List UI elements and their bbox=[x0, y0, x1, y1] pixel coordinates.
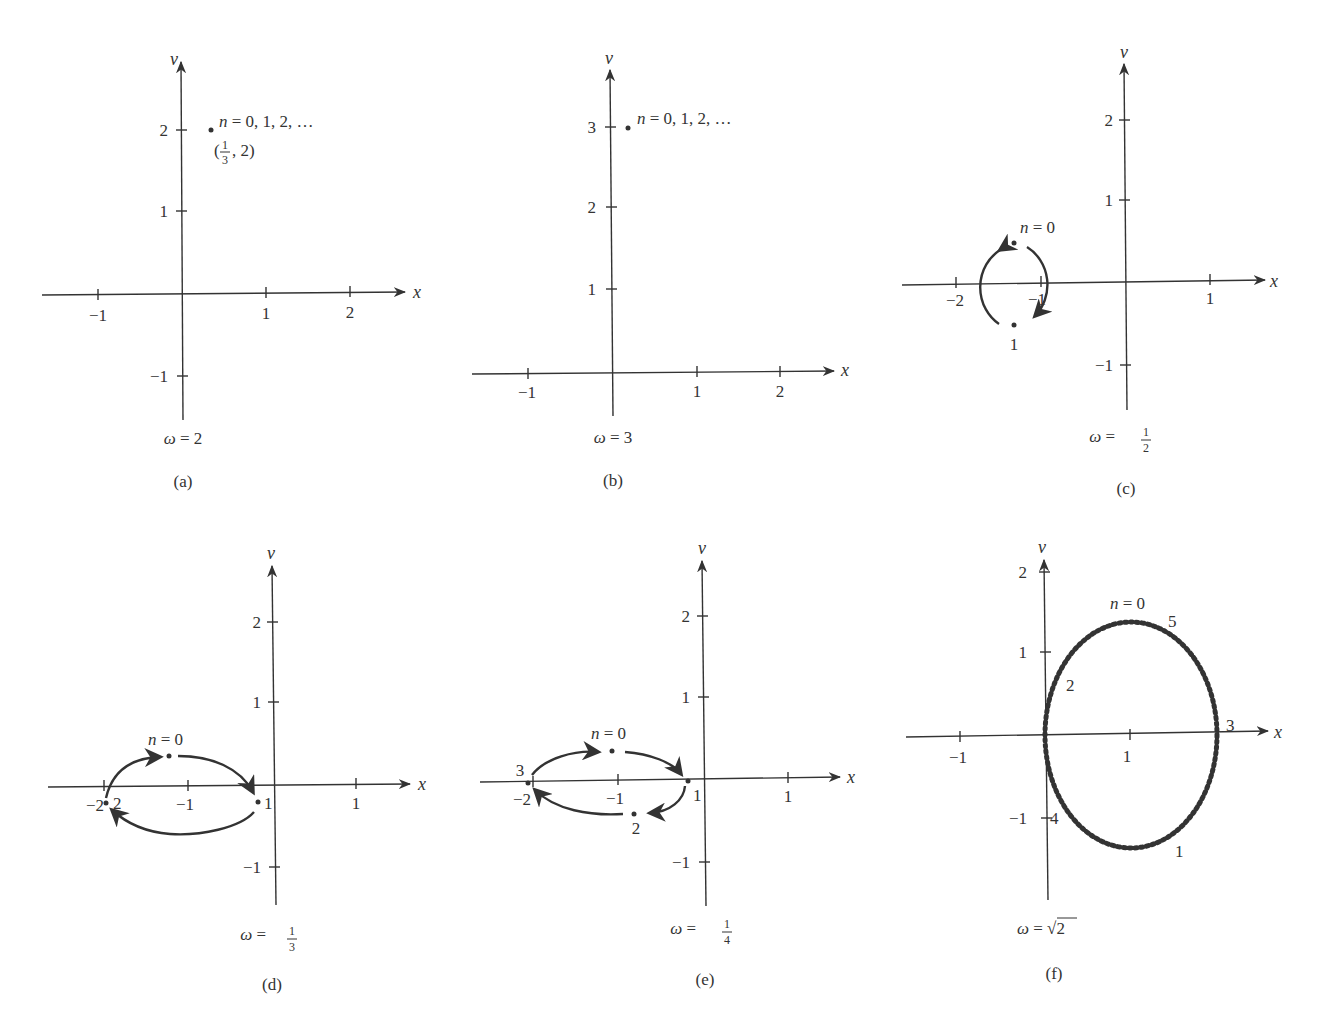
svg-text:v: v bbox=[267, 543, 275, 563]
svg-text:n = 0, 1, 2, …: n = 0, 1, 2, … bbox=[219, 112, 314, 131]
svg-text:n = 0: n = 0 bbox=[591, 724, 626, 743]
panel-d bbox=[48, 566, 410, 905]
panel-e bbox=[480, 561, 840, 906]
svg-text:1: 1 bbox=[1206, 289, 1215, 308]
svg-text:3: 3 bbox=[516, 761, 525, 780]
svg-text:x: x bbox=[1269, 271, 1278, 291]
svg-text:2: 2 bbox=[1105, 111, 1114, 130]
svg-text:ω =: ω = bbox=[1089, 427, 1115, 446]
svg-text:−1: −1 bbox=[518, 383, 536, 402]
svg-text:(: ( bbox=[214, 141, 220, 160]
svg-text:1: 1 bbox=[1010, 335, 1019, 354]
svg-text:1: 1 bbox=[352, 794, 361, 813]
svg-text:1: 1 bbox=[693, 382, 702, 401]
svg-text:x: x bbox=[417, 774, 426, 794]
svg-text:2: 2 bbox=[160, 121, 169, 140]
panel-a-labels: v x −1 1 2 2 1 −1 n = 0, 1, 2, … ( 1 3 ,… bbox=[89, 49, 421, 491]
svg-text:1: 1 bbox=[1143, 425, 1149, 439]
svg-text:2: 2 bbox=[1066, 676, 1075, 695]
svg-text:3: 3 bbox=[222, 153, 228, 167]
panel-c bbox=[902, 64, 1265, 410]
panel-f bbox=[906, 560, 1268, 900]
svg-text:1: 1 bbox=[1105, 191, 1114, 210]
svg-text:−1: −1 bbox=[1095, 356, 1113, 375]
figure-canvas: v x −1 1 2 2 1 −1 n = 0, 1, 2, … ( 1 3 ,… bbox=[0, 0, 1328, 1011]
panel-f-labels: v x −1 1 2 1 −1 n = 0 5 2 3 4 1 ω = √2 (… bbox=[949, 537, 1282, 983]
svg-text:x: x bbox=[846, 767, 855, 787]
svg-text:v: v bbox=[605, 48, 613, 68]
panel-b-labels: v x −1 1 2 3 2 1 n = 0, 1, 2, … ω = 3 (b… bbox=[518, 48, 849, 490]
svg-text:(f): (f) bbox=[1046, 964, 1063, 983]
panel-e-labels: v x −2 −1 1 2 1 −1 n = 0 1 2 3 ω = 1 4 (… bbox=[513, 538, 855, 989]
svg-text:ω = 3: ω = 3 bbox=[594, 428, 633, 447]
svg-text:−2: −2 bbox=[513, 790, 531, 809]
svg-text:3: 3 bbox=[289, 940, 295, 954]
svg-text:1: 1 bbox=[264, 794, 273, 813]
caption-a: (a) bbox=[174, 472, 193, 491]
svg-text:1: 1 bbox=[1175, 842, 1184, 861]
svg-text:x: x bbox=[840, 360, 849, 380]
svg-text:v: v bbox=[1038, 537, 1046, 557]
svg-text:(e): (e) bbox=[696, 970, 715, 989]
svg-text:2: 2 bbox=[1019, 563, 1028, 582]
svg-text:1: 1 bbox=[160, 202, 169, 221]
svg-text:−1: −1 bbox=[949, 748, 967, 767]
svg-text:−1: −1 bbox=[89, 306, 107, 325]
svg-text:1: 1 bbox=[693, 786, 702, 805]
omega-label: ω = 2 bbox=[164, 429, 203, 448]
svg-text:n = 0: n = 0 bbox=[1110, 594, 1145, 613]
svg-text:−1: −1 bbox=[606, 789, 624, 808]
svg-text:1: 1 bbox=[588, 280, 597, 299]
fixed-point bbox=[209, 128, 214, 133]
svg-text:−2: −2 bbox=[86, 796, 104, 815]
svg-text:4: 4 bbox=[724, 933, 730, 947]
v-axis bbox=[181, 62, 183, 420]
panel-d-labels: v x −2 −1 1 2 1 −1 n = 0 1 2 ω = 1 3 (d) bbox=[86, 543, 426, 994]
svg-text:1: 1 bbox=[1019, 643, 1028, 662]
svg-text:x: x bbox=[1273, 722, 1282, 742]
svg-text:2: 2 bbox=[253, 613, 262, 632]
svg-text:1: 1 bbox=[253, 693, 262, 712]
svg-text:, 2): , 2) bbox=[232, 141, 255, 160]
svg-text:−1: −1 bbox=[1009, 809, 1027, 828]
svg-text:(b): (b) bbox=[603, 471, 623, 490]
svg-text:1: 1 bbox=[222, 138, 228, 152]
svg-text:−1: −1 bbox=[150, 367, 168, 386]
svg-text:2: 2 bbox=[1143, 441, 1149, 455]
svg-text:ω =: ω = bbox=[240, 925, 266, 944]
svg-text:−1: −1 bbox=[672, 853, 690, 872]
svg-text:ω = √2: ω = √2 bbox=[1017, 919, 1065, 938]
fixed-point bbox=[626, 126, 631, 131]
svg-text:1: 1 bbox=[784, 787, 793, 806]
svg-text:2: 2 bbox=[113, 794, 122, 813]
svg-text:1: 1 bbox=[289, 924, 295, 938]
svg-text:ω =: ω = bbox=[670, 919, 696, 938]
svg-text:3: 3 bbox=[1226, 716, 1235, 735]
svg-text:(c): (c) bbox=[1117, 479, 1136, 498]
svg-text:n = 0: n = 0 bbox=[1020, 218, 1055, 237]
svg-text:n = 0: n = 0 bbox=[148, 730, 183, 749]
panel-c-labels: v x −2 −1 1 2 1 −1 n = 0 1 ω = 1 2 (c) bbox=[946, 42, 1278, 498]
svg-text:1: 1 bbox=[724, 917, 730, 931]
v-axis-label: v bbox=[170, 49, 178, 69]
svg-text:3: 3 bbox=[588, 118, 597, 137]
svg-text:−2: −2 bbox=[946, 291, 964, 310]
svg-text:n = 0, 1, 2, …: n = 0, 1, 2, … bbox=[637, 109, 732, 128]
svg-text:1: 1 bbox=[682, 688, 691, 707]
svg-text:5: 5 bbox=[1168, 612, 1177, 631]
svg-text:1: 1 bbox=[262, 304, 271, 323]
dotted-orbit bbox=[1045, 622, 1217, 848]
x-axis-label: x bbox=[412, 282, 421, 302]
svg-text:2: 2 bbox=[632, 819, 641, 838]
svg-text:v: v bbox=[698, 538, 706, 558]
svg-text:1: 1 bbox=[1123, 747, 1132, 766]
svg-text:−1: −1 bbox=[243, 858, 261, 877]
svg-text:4: 4 bbox=[1050, 809, 1059, 828]
svg-text:2: 2 bbox=[346, 303, 355, 322]
svg-text:2: 2 bbox=[682, 607, 691, 626]
svg-text:v: v bbox=[1120, 42, 1128, 62]
svg-text:2: 2 bbox=[776, 382, 785, 401]
svg-text:(d): (d) bbox=[262, 975, 282, 994]
svg-text:−1: −1 bbox=[176, 795, 194, 814]
svg-text:2: 2 bbox=[588, 198, 597, 217]
